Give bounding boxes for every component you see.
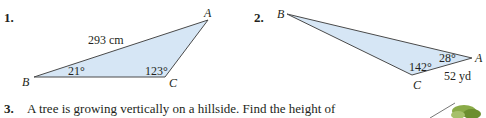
- triangle-2-shape: [287, 14, 472, 75]
- problem-3-number: 3.: [4, 101, 14, 117]
- triangle-2-angle-c: 142°: [409, 60, 432, 74]
- problem-3-text: A tree is growing vertically on a hillsi…: [27, 101, 335, 117]
- triangle-1-angle-b: 21°: [68, 64, 85, 78]
- triangle-2-vertex-c: C: [413, 78, 422, 92]
- triangle-2: 28° 142° 52 yd B A C: [277, 7, 483, 92]
- triangle-1-vertex-c: C: [169, 76, 178, 90]
- triangle-2-angle-a: 28°: [439, 51, 456, 65]
- tree-illustration: [430, 103, 481, 118]
- triangle-1: 293 cm 21° 123° B C A: [22, 6, 212, 90]
- triangle-1-side-label: 293 cm: [88, 33, 124, 47]
- triangle-1-angle-c: 123°: [145, 64, 168, 78]
- triangle-1-vertex-b: B: [22, 75, 30, 89]
- triangle-2-side-label: 52 yd: [444, 69, 471, 83]
- triangle-2-vertex-b: B: [277, 7, 285, 21]
- triangle-2-vertex-a: A: [474, 51, 483, 65]
- triangle-1-vertex-a: A: [203, 6, 212, 20]
- triangle-1-shape: [34, 20, 208, 77]
